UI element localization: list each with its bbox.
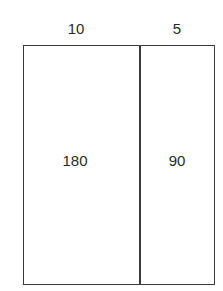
region-divider-line	[139, 45, 141, 285]
right-width-label: 5	[157, 21, 197, 37]
area-model-diagram: 10 5 180 90	[0, 0, 223, 291]
right-region-area-label: 90	[152, 153, 202, 169]
left-width-label: 10	[56, 21, 96, 37]
left-region-area-label: 180	[50, 153, 100, 169]
